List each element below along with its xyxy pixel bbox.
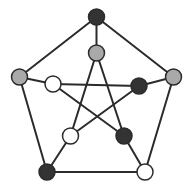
- edge-inner-top-inner-bottom-left: [71, 53, 97, 136]
- node-outer-top: [89, 9, 105, 25]
- node-outer-bottom-left: [39, 164, 55, 180]
- node-outer-left: [12, 69, 28, 85]
- edge-inner-left-inner-bottom-right: [53, 84, 124, 136]
- edge-inner-top-inner-bottom-right: [97, 53, 125, 136]
- edge-outer-bottom-left-outer-left: [20, 77, 48, 172]
- edge-outer-top-outer-right: [97, 17, 174, 77]
- node-outer-bottom-right: [137, 164, 153, 180]
- node-inner-left: [45, 76, 61, 92]
- edge-outer-left-outer-top: [20, 17, 97, 77]
- graph-edges: [20, 17, 174, 172]
- node-inner-bottom-right: [116, 128, 132, 144]
- edge-inner-right-inner-bottom-left: [71, 86, 140, 136]
- petersen-graph-diagram: [0, 0, 193, 188]
- node-inner-bottom-left: [63, 128, 79, 144]
- node-outer-right: [166, 69, 182, 85]
- node-inner-top: [89, 45, 105, 61]
- edge-inner-left-inner-right: [53, 84, 139, 86]
- node-inner-right: [131, 78, 147, 94]
- edge-outer-right-outer-bottom-right: [145, 77, 174, 172]
